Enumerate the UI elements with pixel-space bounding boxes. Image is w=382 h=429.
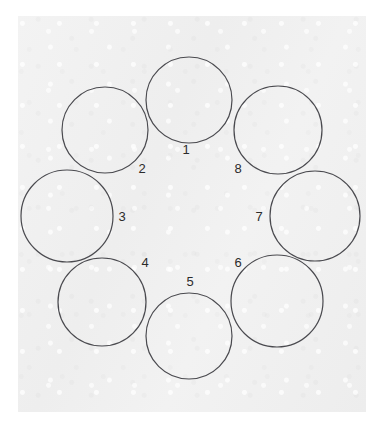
circle-5[interactable] <box>146 293 232 379</box>
circle-2[interactable] <box>62 87 148 173</box>
circle-label-2: 2 <box>138 161 145 176</box>
circle-7[interactable] <box>270 171 360 261</box>
circle-1[interactable] <box>146 57 232 143</box>
labels-group: 12345678 <box>118 142 262 289</box>
circle-label-5: 5 <box>186 274 193 289</box>
circle-8[interactable] <box>234 86 322 174</box>
circle-3[interactable] <box>21 170 113 262</box>
circle-label-7: 7 <box>255 209 262 224</box>
circle-6[interactable] <box>231 255 323 347</box>
circle-label-4: 4 <box>141 255 148 270</box>
circles-group <box>21 57 360 379</box>
circle-label-8: 8 <box>234 161 241 176</box>
circle-label-3: 3 <box>118 209 125 224</box>
circle-label-6: 6 <box>234 255 241 270</box>
circle-label-1: 1 <box>182 142 189 157</box>
circle-4[interactable] <box>58 258 146 346</box>
ring-diagram: 12345678 <box>0 0 382 429</box>
